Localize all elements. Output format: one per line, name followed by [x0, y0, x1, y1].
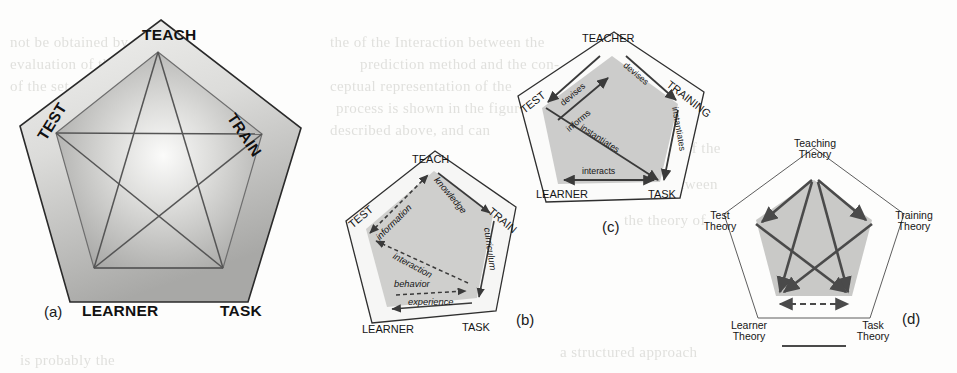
bleed-text-12: a structured approach: [560, 344, 698, 361]
panel-b-node-teach: TEACH: [412, 153, 449, 165]
panel-b-caption: (b): [516, 311, 534, 328]
panel-d-node-training-line2: Theory: [882, 221, 946, 232]
panel-d-node-learner-theory: Learner Theory: [718, 320, 780, 342]
panel-a: TEACH TEST TRAIN LEARNER TASK (a): [8, 6, 308, 336]
panel-d-node-task-line2: Theory: [846, 331, 900, 342]
panel-d-node-test-line2: Theory: [692, 221, 748, 232]
panel-a-node-teach: TEACH: [142, 26, 196, 44]
panel-a-graphic: [8, 6, 308, 336]
panel-b-label-experience: experience: [408, 297, 453, 307]
bleed-text-2: ceptual representation of the: [330, 78, 512, 95]
panel-a-node-task: TASK: [220, 302, 262, 320]
panel-c-label-interacts: interacts: [582, 166, 615, 176]
panel-c-node-teacher: TEACHER: [582, 32, 635, 44]
panel-d-node-learner-line2: Theory: [718, 331, 780, 342]
panel-d-node-test-theory: Test Theory: [692, 210, 748, 232]
panel-d-node-task-theory: Task Theory: [846, 320, 900, 342]
bleed-text-11: is probably the: [20, 352, 115, 369]
panel-d-node-teaching-theory: Teaching Theory: [780, 138, 850, 160]
panel-a-caption: (a): [44, 303, 62, 320]
panel-b-node-learner: LEARNER: [362, 323, 414, 335]
panel-b-node-task: TASK: [462, 321, 490, 333]
panel-d: Teaching Theory Test Theory Training The…: [706, 134, 936, 364]
panel-d-caption: (d): [902, 310, 920, 327]
panel-b-label-behavior: behavior: [394, 279, 430, 289]
panel-c-graphic: [502, 22, 722, 242]
bleed-text-3: process is shown in the figure: [336, 100, 527, 117]
panel-d-node-teaching-line2: Theory: [780, 149, 850, 160]
panel-c-node-task: TASK: [648, 188, 676, 200]
figure-canvas: the of the Interaction between thepredic…: [0, 0, 957, 373]
panel-a-node-learner: LEARNER: [82, 302, 158, 320]
panel-d-node-training-theory: Training Theory: [882, 210, 946, 232]
panel-c-caption: (c): [602, 218, 620, 235]
panel-c-node-learner: LEARNER: [536, 188, 588, 200]
panel-c: TEACHER TEST TRAINING LEARNER TASK devis…: [502, 22, 722, 242]
bleed-text-4: described above, and can: [330, 122, 490, 139]
